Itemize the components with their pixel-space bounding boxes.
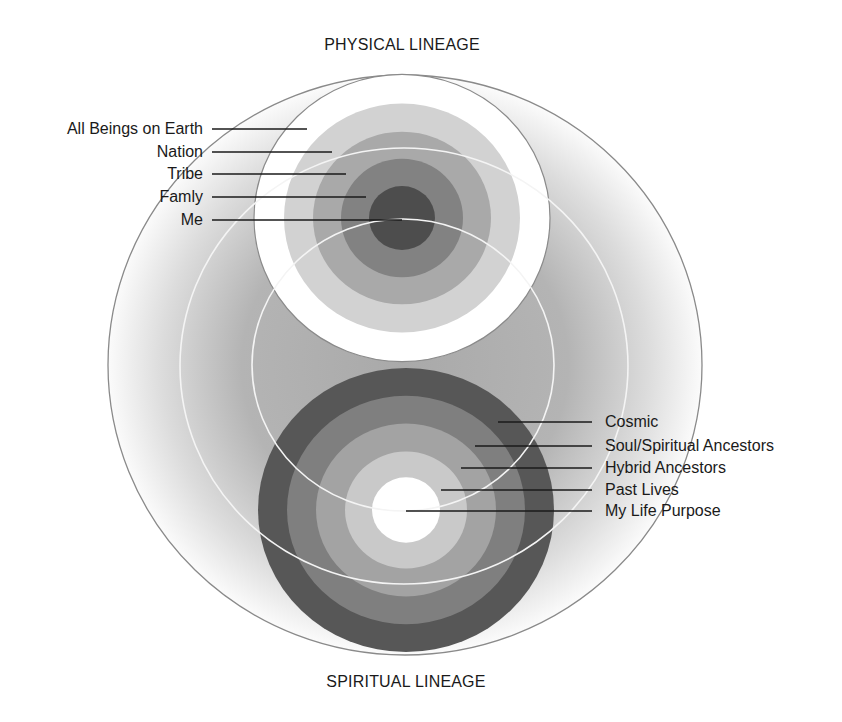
label-me: Me [181,211,203,229]
lineage-diagram [0,0,842,722]
label-my-life-purpose: My Life Purpose [605,502,721,520]
label-family: Famly [159,188,203,206]
label-past-lives: Past Lives [605,481,679,499]
spiritual-lineage-circle [258,368,554,652]
physical-lineage-heading: PHYSICAL LINEAGE [324,36,480,54]
label-tribe: Tribe [167,165,203,183]
label-nation: Nation [157,143,203,161]
physical-ring-4 [369,186,435,250]
spiritual-lineage-heading: SPIRITUAL LINEAGE [326,673,485,691]
label-cosmic: Cosmic [605,413,658,431]
label-soul-spiritual-ancestors: Soul/Spiritual Ancestors [605,437,774,455]
physical-lineage-circle [254,74,550,361]
label-all-beings-on-earth: All Beings on Earth [67,120,203,138]
label-hybrid-ancestors: Hybrid Ancestors [605,459,726,477]
